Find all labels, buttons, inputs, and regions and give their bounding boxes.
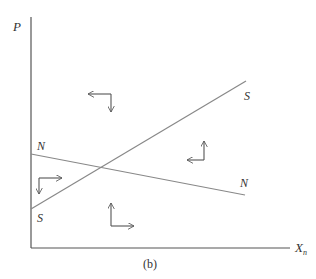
arrows-upper-region	[88, 94, 111, 112]
n-line	[31, 154, 245, 195]
phase-diagram: P Xn S S N N (b)	[0, 0, 316, 279]
s-label-lower: S	[37, 211, 43, 225]
s-curve: S S	[31, 81, 250, 225]
x-axis-label: Xn	[294, 240, 307, 257]
arrows-right-region	[187, 141, 204, 160]
y-axis-label: P	[12, 19, 21, 34]
figure-caption: (b)	[143, 257, 157, 271]
n-curve: N N	[31, 139, 249, 195]
n-label-right: N	[239, 176, 249, 190]
arrows-left-region	[39, 178, 62, 194]
n-label-upper: N	[36, 139, 46, 153]
s-label-upper: S	[244, 89, 250, 103]
x-axis-label-subscript: n	[303, 248, 307, 257]
s-line	[31, 81, 246, 209]
axes: P Xn	[12, 17, 307, 257]
arrows-lower-region	[111, 203, 134, 226]
